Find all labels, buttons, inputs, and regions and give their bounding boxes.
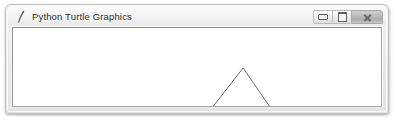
maximize-icon <box>338 12 347 22</box>
turtle-canvas-frame <box>12 27 382 107</box>
close-button[interactable] <box>351 10 383 24</box>
python-feather-icon <box>15 10 27 23</box>
window-titlebar[interactable]: Python Turtle Graphics <box>8 7 386 25</box>
window-controls <box>313 10 383 24</box>
minimize-button[interactable] <box>313 10 333 24</box>
window-bottom-strip <box>12 107 382 111</box>
minimize-icon <box>318 14 328 20</box>
maximize-button[interactable] <box>332 10 352 24</box>
turtle-graphics-window: Python Turtle Graphics <box>5 4 389 114</box>
turtle-drawing-canvas[interactable] <box>13 28 381 106</box>
window-title: Python Turtle Graphics <box>32 11 132 22</box>
close-icon <box>363 13 372 22</box>
desktop-backdrop: Python Turtle Graphics <box>0 0 397 123</box>
canvas-background <box>13 28 381 106</box>
